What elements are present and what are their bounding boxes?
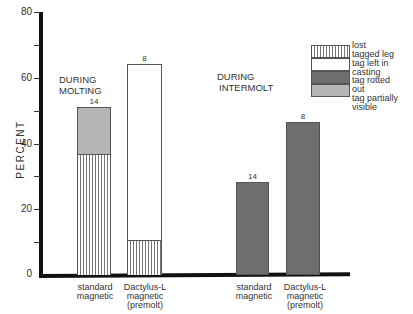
legend-entry-tag-partially-visible: tag partially visible — [352, 94, 398, 112]
y-tick-10 — [34, 242, 40, 243]
y-tick-label: 0 — [8, 268, 32, 279]
segment-lost-tagged-leg — [78, 154, 110, 275]
category-label-line: magnetic — [229, 292, 279, 301]
y-tick-label: 20 — [8, 203, 32, 214]
sample-size-label: 14 — [77, 97, 111, 106]
bar-standard-intermolt — [236, 182, 269, 275]
segment-tag-partially-visible — [78, 108, 110, 154]
sample-size-label: 14 — [236, 172, 269, 181]
category-label-line: (premolt) — [118, 301, 172, 310]
group-label-line: MOLTING — [59, 85, 102, 96]
category-label: Dactylus-L magnetic (premolt) — [118, 283, 172, 310]
category-label: standard magnetic — [70, 283, 120, 301]
y-tick-label: 60 — [8, 72, 32, 83]
segment-tag-left-in-casting — [128, 65, 161, 240]
legend-entry-tag-rotted-out: tag rotted out — [352, 76, 390, 94]
legend-swatch-tag-partially-visible — [311, 84, 350, 97]
group-label-intermolt: DURING INTERMOLT — [217, 71, 273, 93]
bar-dactylus-intermolt — [286, 122, 320, 275]
segment-lost-tagged-leg — [128, 240, 161, 275]
legend-entry-lost-tagged-leg: lost tagged leg — [352, 41, 394, 59]
legend-swatch-tag-rotted-out — [311, 71, 350, 84]
y-axis-label: PERCENT — [15, 120, 26, 180]
legend-swatch-lost-tagged-leg — [311, 45, 350, 58]
category-label: standard magnetic — [229, 283, 279, 301]
bar-standard-molting — [77, 107, 111, 275]
y-tick-80 — [34, 12, 40, 13]
y-tick-30 — [34, 176, 40, 177]
y-tick-20 — [34, 209, 40, 210]
category-label-line: magnetic — [70, 292, 120, 301]
sample-size-label: 8 — [286, 112, 320, 121]
bar-dactylus-molting — [127, 64, 162, 275]
legend-swatch-tag-left-in-casting — [311, 58, 350, 71]
y-tick-40 — [34, 144, 40, 145]
y-tick-50 — [34, 111, 40, 112]
y-tick-70 — [34, 45, 40, 46]
group-label-line: DURING — [59, 74, 102, 85]
legend-label-line: visible — [352, 103, 398, 112]
sample-size-label: 8 — [127, 54, 162, 63]
y-tick-label: 80 — [8, 6, 32, 17]
y-tick-60 — [34, 78, 40, 79]
category-label: Dactylus-L magnetic (premolt) — [278, 283, 332, 310]
group-label-line: DURING — [217, 71, 273, 82]
group-label-line: INTERMOLT — [217, 82, 273, 93]
category-label-line: (premolt) — [278, 301, 332, 310]
group-label-molting: DURING MOLTING — [59, 74, 102, 96]
